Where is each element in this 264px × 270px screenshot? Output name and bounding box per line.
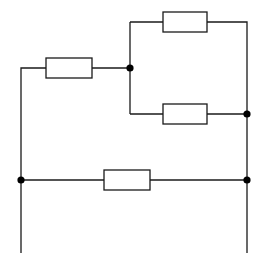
junction-dot-icon xyxy=(243,176,250,183)
wire-top-branch-right xyxy=(207,22,247,253)
resistors xyxy=(46,12,207,190)
resistor-icon xyxy=(104,170,150,190)
resistor-icon xyxy=(163,12,207,32)
circuit-diagram xyxy=(0,0,264,270)
wires xyxy=(21,22,247,253)
wire-left-vertical xyxy=(21,68,46,253)
resistor-icon xyxy=(163,104,207,124)
junction-dot-icon xyxy=(17,176,24,183)
junction-dot-icon xyxy=(126,64,133,71)
junction-nodes xyxy=(17,64,250,183)
junction-dot-icon xyxy=(243,110,250,117)
resistor-icon xyxy=(46,58,92,78)
